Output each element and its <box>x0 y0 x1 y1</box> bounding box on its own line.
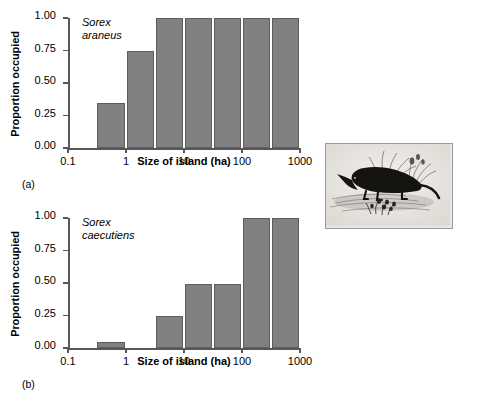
shrew-illustration-drawing <box>326 144 450 226</box>
bar-b-6 <box>272 218 299 348</box>
bar-a-6 <box>272 18 299 148</box>
plot-area-a: Sorex araneus 0.000.250.500.751.000.1110… <box>68 18 300 148</box>
x-axis-title-a: Size of island (ha) <box>68 155 300 167</box>
x-tick-b-0 <box>67 348 69 353</box>
species-label-a: Sorex araneus <box>82 16 122 41</box>
x-tick-a-4 <box>299 148 301 153</box>
species-line2-b: caecutiens <box>82 229 135 241</box>
species-label-b: Sorex caecutiens <box>82 216 135 241</box>
x-tick-b-2 <box>183 348 185 353</box>
panel-b: Proportion occupied Sorex caecutiens 0.0… <box>0 200 320 400</box>
y-tick-label-a-2: 0.50 <box>35 74 56 86</box>
bar-b-4 <box>214 284 241 348</box>
x-tick-a-2 <box>183 148 185 153</box>
x-tick-b-3 <box>241 348 243 353</box>
y-tick-a-4: 1.00 <box>63 17 68 19</box>
species-line1-b: Sorex <box>82 216 111 228</box>
panel-letter-b: (b) <box>22 378 35 390</box>
plot-area-b: Sorex caecutiens 0.000.250.500.751.000.1… <box>68 218 300 348</box>
y-tick-label-b-4: 1.00 <box>35 209 56 221</box>
y-tick-label-a-4: 1.00 <box>35 9 56 21</box>
x-tick-b-1 <box>125 348 127 353</box>
bar-a-1 <box>127 51 154 149</box>
panel-a: Proportion occupied Sorex araneus 0.000.… <box>0 0 320 200</box>
shrew-illustration <box>325 143 453 229</box>
bar-a-3 <box>185 18 212 148</box>
y-tick-a-3: 0.75 <box>63 50 68 52</box>
y-tick-a-2: 0.50 <box>63 82 68 84</box>
species-line2-a: araneus <box>82 29 122 41</box>
figure-root: Proportion occupied Sorex araneus 0.000.… <box>0 0 478 416</box>
bar-b-0 <box>97 342 125 349</box>
y-axis-line-b <box>68 218 70 348</box>
panel-letter-a: (a) <box>22 178 35 190</box>
x-tick-a-3 <box>241 148 243 153</box>
y-tick-b-1: 0.25 <box>63 315 68 317</box>
y-tick-label-a-1: 0.25 <box>35 107 56 119</box>
x-axis-title-b: Size of island (ha) <box>68 355 300 367</box>
x-tick-a-1 <box>125 148 127 153</box>
bar-a-4 <box>214 18 241 148</box>
y-tick-b-2: 0.50 <box>63 282 68 284</box>
y-tick-label-b-2: 0.50 <box>35 274 56 286</box>
bar-a-5 <box>243 18 270 148</box>
y-tick-label-b-1: 0.25 <box>35 307 56 319</box>
y-tick-label-a-0: 0.00 <box>35 139 56 151</box>
species-line1-a: Sorex <box>82 16 111 28</box>
y-axis-title-a: Proportion occupied <box>8 18 22 150</box>
y-axis-line-a <box>68 18 70 148</box>
bar-a-2 <box>156 18 183 148</box>
x-tick-a-0 <box>67 148 69 153</box>
bar-a-0 <box>97 103 125 149</box>
bar-b-2 <box>156 316 183 349</box>
y-tick-label-a-3: 0.75 <box>35 42 56 54</box>
x-tick-b-4 <box>299 348 301 353</box>
y-tick-label-b-3: 0.75 <box>35 242 56 254</box>
bar-b-5 <box>243 218 270 348</box>
y-tick-b-3: 0.75 <box>63 250 68 252</box>
bar-b-3 <box>185 284 212 348</box>
y-tick-b-4: 1.00 <box>63 217 68 219</box>
y-axis-title-b: Proportion occupied <box>8 218 22 350</box>
y-tick-a-1: 0.25 <box>63 115 68 117</box>
y-tick-label-b-0: 0.00 <box>35 339 56 351</box>
